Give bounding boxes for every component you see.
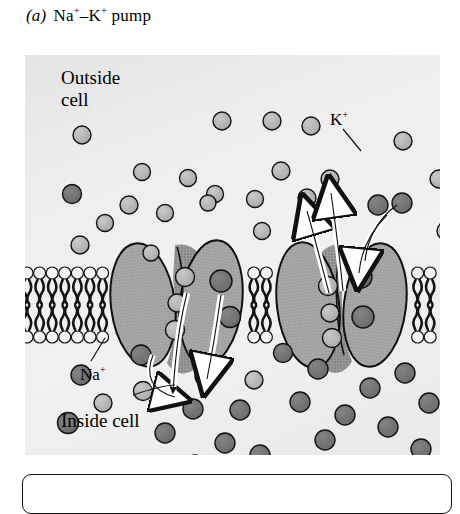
label-sodium-charge: +	[100, 364, 106, 375]
ion-sodium	[120, 196, 138, 214]
bound-ion-potassium	[210, 270, 232, 292]
membrane-illustration	[25, 55, 440, 455]
label-sodium-text: Na	[80, 365, 100, 384]
ion-sodium	[157, 205, 174, 222]
ion-sodium	[143, 245, 159, 261]
ion-potassium	[250, 445, 270, 455]
ion-sodium	[437, 222, 440, 240]
ion-sodium	[430, 170, 440, 188]
ion-sodium	[394, 132, 412, 150]
label-inside-cell: Inside cell	[61, 410, 140, 432]
title-pump-word: pump	[107, 6, 151, 25]
panel-letter: (a)	[26, 6, 46, 25]
label-sodium-ion: Na+	[80, 365, 106, 385]
bound-ion-potassium	[220, 307, 241, 328]
ion-potassium	[183, 399, 203, 419]
outside-ion-group	[63, 112, 441, 261]
bound-ion-sodium	[176, 268, 195, 287]
diagram-panel: Outside cell Inside cell Na+ K+	[25, 55, 440, 455]
caption-box-frame	[22, 474, 452, 514]
ion-potassium	[155, 423, 175, 443]
figure-caption: (a)Na+–K+ pump	[26, 6, 151, 26]
ion-potassium	[368, 195, 388, 215]
ion-sodium	[97, 215, 114, 232]
ion-sodium	[245, 371, 263, 389]
label-outside-cell: Outside cell	[61, 67, 120, 111]
ion-sodium	[180, 170, 197, 187]
label-potassium-charge: +	[342, 109, 348, 120]
ion-sodium	[321, 170, 339, 188]
ion-sodium	[272, 162, 290, 180]
ion-potassium	[392, 193, 412, 213]
ion-sodium	[298, 189, 316, 207]
bound-ion-potassium	[352, 306, 374, 328]
title-na: Na	[53, 6, 73, 25]
label-potassium-text: K	[330, 110, 342, 129]
ion-sodium	[254, 223, 271, 240]
ion-potassium	[315, 430, 335, 450]
ion-potassium	[335, 405, 355, 425]
ion-potassium	[378, 417, 398, 437]
ion-sodium	[71, 236, 89, 254]
ion-sodium	[73, 126, 91, 144]
ion-potassium	[419, 393, 439, 413]
figure-title: Na+–K+ pump	[53, 6, 151, 25]
ion-potassium	[411, 439, 431, 455]
ion-sodium	[263, 112, 281, 130]
bound-ion-sodium	[321, 304, 339, 322]
ion-sodium	[302, 117, 320, 135]
ion-potassium	[215, 433, 235, 453]
ion-sodium	[247, 191, 264, 208]
ion-potassium	[63, 185, 82, 204]
bound-ion-sodium	[323, 329, 342, 348]
ion-potassium	[274, 344, 293, 363]
ion-potassium	[290, 392, 310, 412]
ion-sodium	[200, 195, 216, 211]
ion-sodium	[134, 382, 153, 401]
ion-potassium	[308, 359, 328, 379]
title-k: –K	[80, 6, 101, 25]
label-potassium-ion: K+	[330, 110, 348, 130]
ion-potassium	[360, 378, 380, 398]
ion-sodium	[213, 112, 231, 130]
ion-potassium	[395, 363, 415, 383]
ion-potassium	[230, 400, 250, 420]
ion-sodium	[134, 164, 151, 181]
